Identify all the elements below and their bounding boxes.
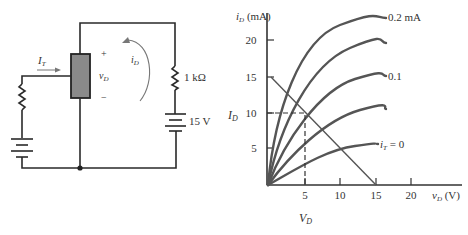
y-tick-label: 10 <box>246 107 258 119</box>
operating-current-label: ID <box>227 108 238 123</box>
supply-voltage-label: 15 V <box>189 115 211 127</box>
ground-node <box>77 165 82 170</box>
resistor-value-label: 1 kΩ <box>184 71 206 83</box>
loop-current-label: iD <box>131 54 139 67</box>
plus-sign: + <box>101 48 107 59</box>
loop-current-arrow-icon <box>122 37 150 101</box>
x-axis-title: vD (V) <box>432 189 460 203</box>
control-resistor-icon <box>19 84 25 110</box>
load-line <box>271 77 376 185</box>
control-wire <box>22 76 71 84</box>
y-tick-label: 15 <box>246 71 258 83</box>
operating-voltage-label: VD <box>299 211 312 226</box>
load-resistor-icon <box>172 66 178 90</box>
x-tick-label: 5 <box>302 189 308 201</box>
supply-battery-icon <box>165 114 186 131</box>
bottom-wire <box>22 131 176 168</box>
figure-canvas: IT + vD − iD 1 kΩ 15 V 5 10 15 20 <box>0 0 468 235</box>
y-tick-label: 20 <box>246 34 258 46</box>
three-terminal-device <box>71 54 90 98</box>
y-axis-title: iD (mA) <box>236 10 271 24</box>
top-wire <box>80 23 175 66</box>
curve-label-0.2mA: 0.2 mA <box>388 11 421 23</box>
iv-characteristic-chart: 5 10 15 20 5 10 15 20 iD (mA) vD (V) ID … <box>227 10 462 226</box>
x-tick-label: 20 <box>406 189 418 201</box>
circuit-diagram: IT + vD − iD 1 kΩ 15 V <box>11 23 211 171</box>
curve-label-it-0: iT = 0 <box>380 138 405 152</box>
y-tick-label: 5 <box>251 142 257 154</box>
x-ticks <box>305 178 411 185</box>
device-voltage-label: vD <box>99 70 109 83</box>
minus-sign: − <box>101 92 107 103</box>
control-current-label: IT <box>37 54 47 68</box>
control-current-arrow-icon <box>37 68 61 73</box>
control-battery-icon <box>11 139 33 157</box>
y-ticks <box>267 40 274 148</box>
curve-label-0.1: 0.1 <box>388 70 402 82</box>
x-tick-label: 10 <box>335 189 347 201</box>
x-tick-label: 15 <box>371 189 383 201</box>
